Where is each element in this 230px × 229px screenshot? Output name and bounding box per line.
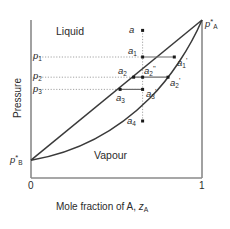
x-axis-label-symbol-sub: A [144, 206, 149, 213]
region-label-liquid: Liquid [56, 26, 84, 37]
x-axis-label: Mole fraction of A, zA [56, 202, 148, 212]
marker-a [141, 29, 144, 32]
region-label-vapour: Vapour [94, 150, 127, 161]
pressure-label-p2: p2 [33, 71, 42, 81]
marker-a2pp [141, 76, 144, 79]
point-label-a3-prime: a3' [146, 89, 156, 99]
y-axis-label: Pressure [12, 78, 23, 118]
x-tick-0: 0 [28, 181, 34, 191]
endpoint-label-pA-star: p*A [205, 19, 218, 29]
point-label-a1-prime: a1' [177, 58, 187, 68]
point-label-a: a [129, 25, 134, 35]
marker-a3 [119, 88, 122, 91]
marker-a2 [132, 76, 135, 79]
point-label-a2-prime: a2' [170, 78, 180, 88]
marker-a1p [173, 56, 176, 59]
point-label-a2: a2 [118, 66, 127, 76]
x-tick-1: 1 [199, 181, 205, 191]
x-axis-label-prefix: Mole fraction of A, [56, 201, 139, 212]
pressure-label-p3: p3 [33, 84, 42, 94]
marker-a4 [141, 120, 144, 123]
point-label-a1: a1 [128, 46, 137, 56]
point-label-a2-double-prime: a2" [144, 66, 156, 76]
point-label-a3: a3 [116, 93, 125, 103]
pressure-label-p1: p1 [33, 51, 42, 61]
phase-diagram-svg [0, 0, 230, 229]
marker-a1 [141, 56, 144, 59]
marker-a3p [141, 88, 144, 91]
point-label-a4: a4 [127, 116, 136, 126]
phase-diagram-figure: Pressure Mole fraction of A, zA 0 1 Liqu… [0, 0, 230, 229]
liquid-line [31, 20, 202, 160]
endpoint-label-pB-star: p*B [10, 155, 23, 165]
